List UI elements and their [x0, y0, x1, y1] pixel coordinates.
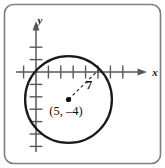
figure-container: y x 7 (5, –4)	[0, 0, 165, 168]
radius-length-label: 7	[86, 78, 92, 92]
circle-coordinate-diagram: y x 7 (5, –4)	[0, 0, 165, 168]
x-axis-label: x	[151, 66, 158, 78]
x-axis-group: x	[16, 66, 158, 79]
center-coordinate-label: (5, –4)	[49, 104, 82, 118]
y-axis-label: y	[36, 14, 43, 26]
x-axis-arrowhead	[138, 69, 148, 76]
circle-center-point	[66, 97, 71, 102]
